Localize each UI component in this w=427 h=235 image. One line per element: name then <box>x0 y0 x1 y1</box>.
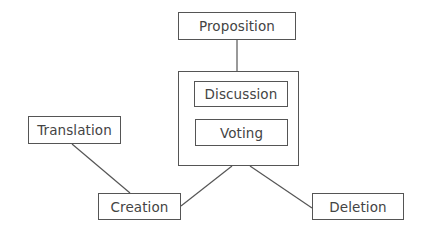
node-voting: Voting <box>195 119 288 146</box>
edge-creation-group <box>181 166 232 206</box>
diagram-canvas: Proposition Discussion Voting Translatio… <box>0 0 427 235</box>
edge-translation-creation <box>72 144 130 193</box>
node-discussion-label: Discussion <box>205 86 278 102</box>
node-translation: Translation <box>28 116 121 144</box>
edge-group-deletion <box>250 166 312 208</box>
node-discussion: Discussion <box>194 81 288 107</box>
node-proposition: Proposition <box>178 12 296 40</box>
node-creation: Creation <box>98 193 181 220</box>
node-proposition-label: Proposition <box>199 18 275 34</box>
node-deletion-label: Deletion <box>329 199 386 215</box>
node-deletion: Deletion <box>312 193 404 220</box>
node-translation-label: Translation <box>37 122 112 138</box>
node-voting-label: Voting <box>220 125 263 141</box>
node-creation-label: Creation <box>111 199 169 215</box>
